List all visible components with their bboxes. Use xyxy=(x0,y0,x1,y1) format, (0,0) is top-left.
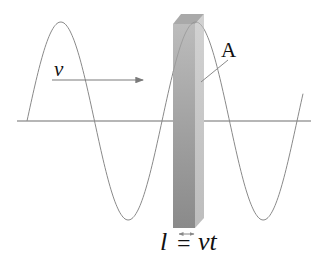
area-pointer-line xyxy=(201,60,228,82)
area-label: A xyxy=(221,38,237,62)
velocity-label: v xyxy=(54,57,64,81)
length-symbol: l xyxy=(160,227,167,256)
area-bar-front-face xyxy=(173,24,195,228)
wave-diagram: v A l = vt xyxy=(0,0,322,262)
equals-sign: = xyxy=(177,230,191,256)
length-expression: vt xyxy=(198,227,218,256)
area-bar-side-face xyxy=(195,14,204,228)
